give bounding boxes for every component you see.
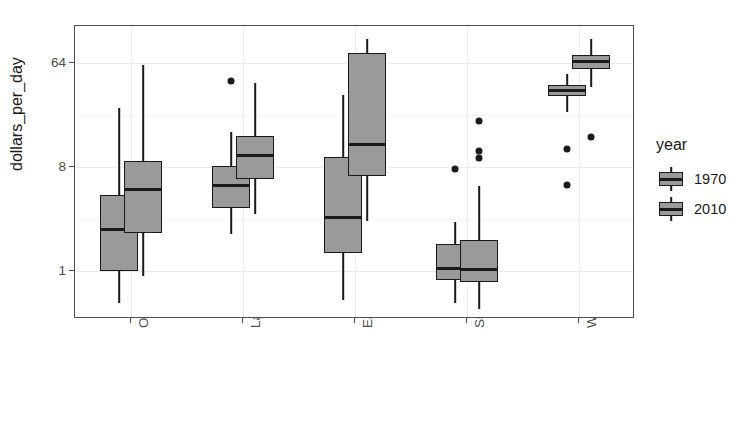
y-tick-label: 64 <box>26 55 66 70</box>
whisker-lower <box>590 69 592 87</box>
whisker-upper <box>590 39 592 55</box>
x-tick-mark <box>578 318 579 323</box>
y-tick-label: 1 <box>26 262 66 277</box>
plot-panel <box>74 25 634 318</box>
median-line <box>572 60 610 63</box>
legend-key-glyph <box>656 164 686 194</box>
legend-title: year <box>656 136 751 154</box>
x-tick-mark <box>242 318 243 323</box>
legend-entries: 19702010 <box>656 164 751 224</box>
x-tick-mark <box>466 318 467 323</box>
legend-label: 1970 <box>694 171 726 187</box>
legend: year 19702010 <box>656 136 751 224</box>
chart-screenshot: dollars_per_day 1864 OthersLatin America… <box>0 0 755 443</box>
y-tick-label: 8 <box>26 158 66 173</box>
y-axis-title: dollars_per_day <box>8 57 26 171</box>
legend-key-glyph <box>656 194 686 224</box>
legend-entry-2010: 2010 <box>656 194 751 224</box>
boxplot-2010-west <box>75 26 633 317</box>
legend-entry-1970: 1970 <box>656 164 751 194</box>
x-tick-mark <box>130 318 131 323</box>
x-tick-mark <box>354 318 355 323</box>
outlier-point <box>588 134 595 141</box>
legend-label: 2010 <box>694 201 726 217</box>
